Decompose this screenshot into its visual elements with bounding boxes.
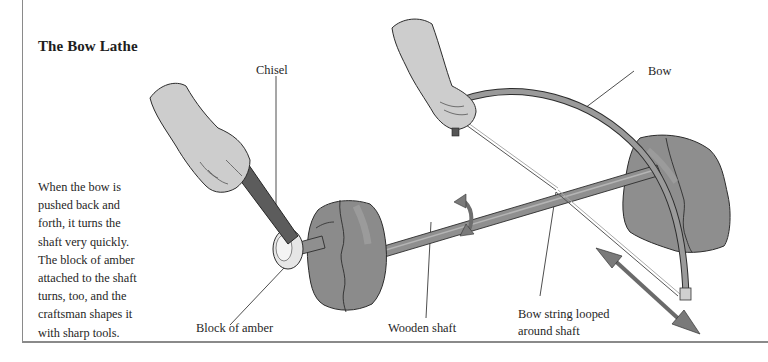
label-chisel: Chisel <box>256 62 288 78</box>
label-bow-string-line2: around shaft <box>518 323 580 339</box>
left-stone <box>307 200 386 312</box>
description-line: with sharp tools. <box>38 324 166 342</box>
description-line: When the bow is <box>38 178 166 196</box>
label-block-of-amber: Block of amber <box>196 320 273 336</box>
description-line: shaft very quickly. <box>38 233 166 251</box>
description-line: The block of amber <box>38 251 166 269</box>
left-hand <box>150 83 250 192</box>
label-wooden-shaft: Wooden shaft <box>388 320 456 336</box>
description-line: craftsman shapes it <box>38 305 166 323</box>
description-text: When the bow is pushed back and forth, i… <box>38 178 166 342</box>
description-line: turns, too, and the <box>38 287 166 305</box>
label-bow-string-line1: Bow string looped <box>518 306 610 322</box>
right-hand <box>392 19 476 136</box>
description-line: pushed back and <box>38 196 166 214</box>
description-line: attached to the shaft <box>38 269 166 287</box>
description-line: forth, it turns the <box>38 214 166 232</box>
diagram-title: The Bow Lathe <box>38 38 138 55</box>
label-bow: Bow <box>648 63 671 79</box>
